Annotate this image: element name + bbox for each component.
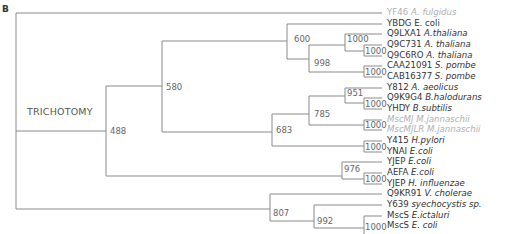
bootstrap-600: 600 [294,35,310,44]
leaf-ynai: YNAI E.coli [387,147,433,156]
leaf-yjep-ecoli: YJEP E.coli [387,157,431,166]
bootstrap-785: 785 [314,110,330,119]
leaf-aefa: AEFA E.coli [387,168,434,177]
bootstrap-488: 488 [110,127,126,136]
bootstrap-1000-mjannaschii: 1000 [365,121,387,130]
bootstrap-951: 951 [347,89,363,98]
leaf-y639: Y639 syechocystis sp. [387,200,482,209]
bootstrap-1000-pombe: 1000 [365,68,387,77]
leaf-mscs-ecoli: MscS E. coli [387,221,437,230]
leaf-yhdy: YHDY B.subtilis [387,104,452,113]
leaf-y415: Y415 H.pylori [387,136,445,145]
bootstrap-580: 580 [166,83,182,92]
leaf-q9c731: Q9C731 A. thaliana [387,40,471,49]
leaf-mscs-eictaluri: MscS E.ictaluri [387,211,449,220]
leaf-mscmj: MscMJ M.jannaschii [387,115,470,124]
bootstrap-1000-pylori-ecoli: 1000 [365,143,387,152]
bootstrap-976: 976 [344,165,360,174]
bootstrap-1000-thaliana-inner: 1000 [365,47,387,56]
bootstrap-1000-thaliana-outer: 1000 [347,35,369,44]
leaf-mscmjlr: MscMJLR M.jannaschii [387,125,480,134]
leaf-yjep-hinfluenzae: YJEP H. influenzae [387,179,465,188]
leaf-q9lxa1: Q9LXA1 A.thaliana [387,29,468,38]
bootstrap-1000-yjep: 1000 [365,175,387,184]
leaf-y812: Y812 A. aeolicus [387,83,458,92]
bootstrap-1000-mscs: 1000 [365,223,387,232]
bootstrap-807: 807 [273,209,289,218]
bootstrap-998: 998 [314,59,330,68]
bootstrap-1000-bacillus: 1000 [365,100,387,109]
leaf-cab16377: CAB16377 S. pombe [387,72,476,81]
bootstrap-683: 683 [276,126,292,135]
leaf-q9c6ro: Q9C6RO A. thaliana [387,51,473,60]
leaf-caa21091: CAA21091 S. pombe [387,61,476,70]
leaf-yf46: YF46 A. fulgidus [387,8,456,17]
bootstrap-992: 992 [317,217,333,226]
leaf-q9k9g4: Q9K9G4 B.halodurans [387,93,482,102]
leaf-ybdg: YBDG E. coli [387,19,440,28]
leaf-q9kr91: Q9KR91 V. cholerae [387,189,472,198]
